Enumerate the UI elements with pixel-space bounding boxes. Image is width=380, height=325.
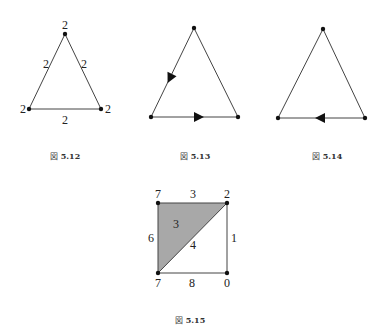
vertex-top [321, 27, 325, 31]
vertex-top-right [225, 201, 229, 205]
vertex-bottom-right [99, 107, 103, 111]
vertex-bottom-right [236, 115, 240, 119]
vertex-label-top: 2 [62, 18, 68, 32]
figure-prefix: 図 [50, 152, 58, 161]
edge-label-right: 1 [231, 231, 237, 245]
vertex-bottom-left [156, 271, 160, 275]
triangle-outline [29, 34, 101, 109]
figure-5-15: 7 2 7 0 3 6 1 8 4 3 [148, 187, 237, 290]
edge-label-left: 2 [43, 57, 49, 71]
triangle-outline [278, 29, 365, 118]
figure-5-13 [149, 26, 240, 122]
figure-prefix: 図 [312, 152, 320, 161]
caption-fig-5-14: 図5.14 [312, 150, 342, 161]
vertex-label-bottom-right: 0 [224, 276, 230, 290]
arrow-bottom-edge-icon [194, 112, 204, 122]
vertex-label-bottom-left: 7 [155, 276, 161, 290]
vertex-bottom-left [276, 116, 280, 120]
vertex-bottom-right [363, 116, 367, 120]
vertex-label-top-right: 2 [224, 187, 230, 201]
figure-number: 5.15 [186, 315, 205, 325]
face-label-shaded: 3 [173, 217, 179, 231]
figure-5-14 [276, 27, 367, 123]
vertex-top [63, 32, 67, 36]
vertex-label-top-left: 7 [155, 187, 161, 201]
arrow-bottom-edge-icon [315, 113, 325, 123]
figure-5-12: 2 2 2 2 2 2 [20, 18, 111, 127]
edge-label-diagonal: 4 [190, 238, 196, 252]
figure-prefix: 図 [180, 152, 188, 161]
vertex-bottom-left [149, 115, 153, 119]
figure-prefix: 図 [175, 316, 183, 325]
edge-label-right: 2 [81, 57, 87, 71]
vertex-bottom-left [27, 107, 31, 111]
edge-label-top: 3 [190, 187, 196, 201]
vertex-label-bottom-left: 2 [20, 102, 26, 116]
edge-label-left: 6 [148, 231, 154, 245]
edge-label-bottom: 2 [62, 113, 68, 127]
vertex-top-left [156, 201, 160, 205]
figure-number: 5.13 [191, 151, 210, 161]
vertex-top [192, 26, 196, 30]
triangle-outline [151, 28, 238, 117]
figure-number: 5.12 [61, 151, 80, 161]
caption-fig-5-12: 図5.12 [50, 150, 80, 161]
vertex-bottom-right [225, 271, 229, 275]
vertex-label-bottom-right: 2 [105, 102, 111, 116]
arrow-left-edge-icon [163, 72, 176, 85]
figure-number: 5.14 [323, 151, 342, 161]
edge-label-bottom: 8 [189, 276, 195, 290]
caption-fig-5-13: 図5.13 [180, 150, 210, 161]
caption-fig-5-15: 図5.15 [175, 314, 205, 325]
